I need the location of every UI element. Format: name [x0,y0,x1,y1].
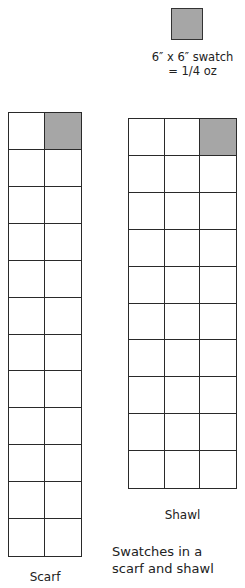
scarf-swatch-cell [9,408,45,445]
shawl-swatch-cell [165,340,201,377]
scarf-swatch-cell [45,261,81,298]
shawl-swatch-cell [165,414,201,451]
swatch-key-label: 6″ x 6″ swatch = 1/4 oz [140,50,245,78]
shawl-swatch-cell [129,267,165,304]
shawl-swatch-cell [165,230,201,267]
scarf-grid [8,112,82,557]
shawl-swatch-cell [200,304,236,341]
shawl-swatch-cell [200,414,236,451]
shawl-swatch-cell [165,377,201,414]
scarf-swatch-cell [45,482,81,519]
shawl-swatch-cell [165,451,201,488]
scarf-swatch-cell [45,224,81,261]
scarf-swatch-cell [45,445,81,482]
scarf-swatch-cell-filled [45,113,81,150]
figure-caption-line1: Swatches in a [112,543,245,560]
figure-caption: Swatches in a scarf and shawl [112,543,245,577]
scarf-swatch-cell [45,187,81,224]
scarf-label: Scarf [0,570,90,584]
scarf-swatch-cell [45,519,81,556]
scarf-swatch-cell [45,335,81,372]
shawl-swatch-cell [165,119,201,156]
scarf-swatch-cell [9,335,45,372]
scarf-swatch-cell [9,519,45,556]
shawl-swatch-cell [165,156,201,193]
shawl-swatch-cell [165,304,201,341]
shawl-swatch-cell [129,304,165,341]
shawl-swatch-cell [200,267,236,304]
swatch-key-label-line2: = 1/4 oz [140,64,245,78]
shawl-swatch-cell [165,267,201,304]
scarf-swatch-cell [9,371,45,408]
shawl-swatch-cell [200,156,236,193]
shawl-swatch-cell [165,193,201,230]
swatch-key-label-line1: 6″ x 6″ swatch [140,50,245,64]
shawl-swatch-cell [129,119,165,156]
shawl-swatch-cell [129,230,165,267]
shawl-swatch-cell [200,193,236,230]
scarf-swatch-cell [45,298,81,335]
shawl-swatch-cell-filled [200,119,236,156]
scarf-swatch-cell [9,482,45,519]
shawl-grid [128,118,237,489]
shawl-swatch-cell [129,193,165,230]
scarf-swatch-cell [45,371,81,408]
shawl-swatch-cell [129,340,165,377]
scarf-swatch-cell [9,298,45,335]
shawl-swatch-cell [129,451,165,488]
scarf-swatch-cell [9,445,45,482]
shawl-swatch-cell [200,377,236,414]
figure-caption-line2: scarf and shawl [112,560,245,577]
scarf-swatch-cell [9,187,45,224]
scarf-swatch-cell [9,261,45,298]
shawl-swatch-cell [200,230,236,267]
scarf-swatch-cell [45,408,81,445]
shawl-label: Shawl [128,508,237,522]
shawl-swatch-cell [200,451,236,488]
scarf-swatch-cell [9,150,45,187]
scarf-swatch-cell [45,150,81,187]
shawl-swatch-cell [129,414,165,451]
shawl-swatch-cell [129,156,165,193]
swatch-key-square [171,8,203,40]
scarf-swatch-cell [9,224,45,261]
shawl-swatch-cell [200,340,236,377]
scarf-swatch-cell [9,113,45,150]
shawl-swatch-cell [129,377,165,414]
